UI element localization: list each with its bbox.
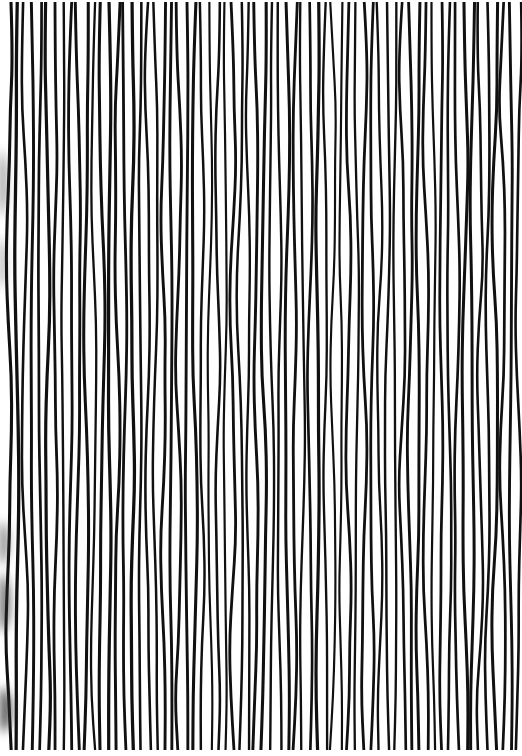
artwork-canvas: Wavy Vertical Stripes hand-drawn ink lin… <box>0 0 522 756</box>
wavy-stripes-pattern <box>0 0 522 756</box>
